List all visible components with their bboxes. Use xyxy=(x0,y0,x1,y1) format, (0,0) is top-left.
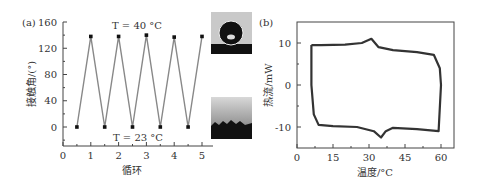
x-tick-label: 1 xyxy=(88,150,94,161)
data-point xyxy=(186,125,190,129)
y-axis-label: 接触角/(°) xyxy=(25,61,37,107)
figure: (a) 04080120160 012345 T = 40 °C T = 23 … xyxy=(0,0,478,194)
panel-b-label: (b) xyxy=(259,17,273,28)
x-tick-label: 2 xyxy=(115,150,121,161)
x-axis-label: 循环 xyxy=(122,164,142,176)
x-tick-label: 30 xyxy=(363,152,376,163)
y-tick-label: 10 xyxy=(278,38,291,49)
y-axis-label: 热流/mW xyxy=(262,63,274,107)
x-axis-label: 温度/°C xyxy=(357,166,393,178)
y-tick-label: 0 xyxy=(285,80,291,91)
data-point xyxy=(117,35,121,39)
heat-flow-loop xyxy=(311,39,441,138)
data-point xyxy=(145,33,149,37)
x-tick-label: 45 xyxy=(399,152,412,163)
panel-b: (b) -10010 015304560 热流/mW 温度/°C xyxy=(259,17,454,178)
y-tick-label: 120 xyxy=(38,43,57,54)
x-tick-label: 60 xyxy=(435,152,448,163)
panel-a: (a) 04080120160 012345 T = 40 °C T = 23 … xyxy=(22,17,213,177)
data-point xyxy=(159,125,163,129)
x-tick-label: 15 xyxy=(327,152,340,163)
data-point xyxy=(172,35,176,39)
annotation-low: T = 23 °C xyxy=(113,132,163,143)
contact-angle-line xyxy=(77,35,202,127)
x-tick-label: 0 xyxy=(294,152,300,163)
data-point xyxy=(200,35,204,39)
x-tick-label: 3 xyxy=(143,150,149,161)
panel-a-label: (a) xyxy=(22,17,36,28)
data-point xyxy=(89,35,93,39)
y-tick-label: 0 xyxy=(51,122,57,133)
x-tick-label: 0 xyxy=(60,150,66,161)
annotation-high: T = 40 °C xyxy=(112,20,162,31)
data-point xyxy=(131,125,135,129)
x-tick-label: 5 xyxy=(199,150,205,161)
inset-spread-image xyxy=(211,97,252,139)
x-ticks: 012345 xyxy=(60,142,205,161)
y-tick-label: 80 xyxy=(44,69,57,80)
inset-droplet-image xyxy=(211,12,252,54)
y-tick-label: -10 xyxy=(275,122,291,133)
x-tick-label: 4 xyxy=(171,150,177,161)
x-ticks: 015304560 xyxy=(294,144,448,163)
data-point xyxy=(103,125,107,129)
y-tick-label: 160 xyxy=(38,17,57,28)
plot-frame xyxy=(297,22,454,148)
data-point xyxy=(75,125,79,129)
y-tick-label: 40 xyxy=(44,95,57,106)
